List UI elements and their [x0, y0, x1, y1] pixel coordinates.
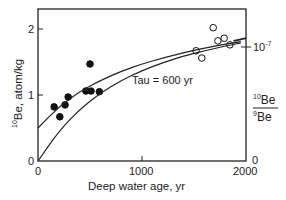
- y-tick-label-0: 0: [28, 155, 34, 167]
- open-data-point: [215, 38, 222, 45]
- filled-data-point: [65, 94, 72, 101]
- y2-tick-label-0: 0: [252, 154, 258, 166]
- filled-data-point: [87, 61, 94, 68]
- open-data-point: [221, 35, 228, 42]
- y2-label-numerator: 10Be: [253, 93, 276, 107]
- filled-data-point: [57, 113, 64, 120]
- y2-label-denominator: 9Be: [253, 110, 272, 124]
- filled-data-point: [88, 88, 95, 95]
- y-tick-label-2: 2: [28, 23, 34, 35]
- chart: 2 1 0 0 1000 2000 0 10-7 Deep water age,…: [0, 0, 286, 200]
- y-tick-label-1: 1: [28, 89, 34, 101]
- series-layer: [38, 24, 246, 161]
- lower-model-curve: [38, 43, 241, 161]
- y2-tick-label-1e-7: 10-7: [253, 40, 272, 53]
- x-tick-label-1000: 1000: [129, 165, 153, 177]
- x-axis-label: Deep water age, yr: [88, 180, 185, 192]
- y-axis-label: 10Be, atom/kg: [11, 59, 24, 128]
- open-data-point: [210, 24, 217, 31]
- tau-annotation: Tau = 600 yr: [132, 74, 193, 86]
- open-data-point: [199, 55, 206, 62]
- right-segment: [234, 38, 246, 41]
- x-tick-label-2000: 2000: [233, 165, 257, 177]
- x-tick-label-0: 0: [35, 165, 41, 177]
